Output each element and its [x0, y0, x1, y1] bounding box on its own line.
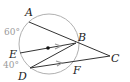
- label-B: B: [77, 31, 86, 44]
- secant-AC: [29, 22, 110, 56]
- label-A: A: [24, 6, 33, 19]
- arc-label-60: 60°: [4, 27, 20, 37]
- center-dot: [46, 46, 50, 50]
- label-C: C: [111, 52, 120, 65]
- label-F: F: [72, 64, 81, 77]
- label-D: D: [17, 70, 27, 82]
- geometry-diagram: A B C E D F 60° 40°: [0, 0, 130, 82]
- arc-label-40: 40°: [3, 60, 19, 70]
